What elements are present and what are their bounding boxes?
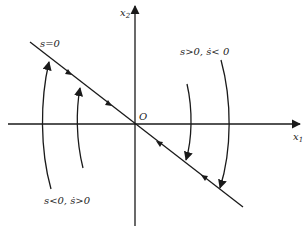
phase-plane-diagram: x1 x2 O s=0 s>0, ṡ< 0 s<0, ṡ>0	[0, 0, 307, 232]
trajectory-right-inner	[186, 84, 191, 160]
x2-axis-label: x2	[120, 7, 131, 20]
trajectory-left-inner	[77, 88, 83, 168]
region-lower-label: s<0, ṡ>0	[44, 195, 91, 206]
origin-label: O	[139, 111, 147, 122]
switching-line-label: s=0	[40, 38, 61, 49]
line-arrow-4	[201, 175, 208, 181]
trajectory-left-outer	[42, 62, 51, 189]
region-upper-label: s>0, ṡ< 0	[180, 46, 230, 57]
x1-axis-label: x1	[293, 131, 303, 144]
